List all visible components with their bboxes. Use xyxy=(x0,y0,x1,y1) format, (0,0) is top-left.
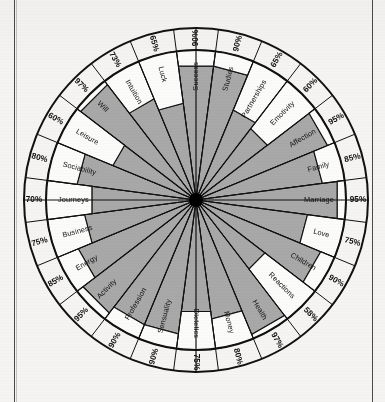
sector-percent-label: 90% xyxy=(231,34,244,53)
rim-divider xyxy=(315,95,332,108)
rim-divider xyxy=(253,339,261,359)
sector-percent-label: 85% xyxy=(343,151,362,164)
rim-divider xyxy=(174,29,177,51)
sector-percent-label: 60% xyxy=(47,111,66,127)
sector-label: Dietetics xyxy=(192,309,201,338)
sector-label: Marriage xyxy=(304,195,334,204)
radar-wheel-svg: SuccessStudiesPartnershipsEmotivityAffec… xyxy=(0,0,385,402)
rim-divider xyxy=(174,349,177,371)
rim-divider xyxy=(25,178,47,181)
sector-percent-label: 80% xyxy=(31,151,50,164)
sector-percent-label: 65% xyxy=(148,34,161,53)
rim-divider xyxy=(345,178,367,181)
rim-divider xyxy=(60,95,77,108)
rim-divider xyxy=(130,339,138,359)
life-wheel-figure: SuccessStudiesPartnershipsEmotivityAffec… xyxy=(0,0,385,402)
sector-percent-label: 90% xyxy=(191,29,200,46)
rim-divider xyxy=(335,134,355,142)
rim-divider xyxy=(315,291,332,304)
sector-percent-label: 73% xyxy=(107,50,123,69)
rim-divider xyxy=(37,257,57,265)
rim-divider xyxy=(287,64,300,81)
sector-label: Success xyxy=(191,62,200,91)
sector-percent-label: 85% xyxy=(46,272,65,288)
rim-divider xyxy=(335,257,355,265)
sector-percent-label: 90% xyxy=(147,347,160,366)
sector-percent-label: 95% xyxy=(72,305,90,323)
sector-percent-label: 75% xyxy=(343,235,362,248)
rim-divider xyxy=(253,41,261,61)
sector-percent-label: 70% xyxy=(26,195,43,204)
rim-divider xyxy=(60,291,77,304)
rim-divider xyxy=(287,319,300,336)
rim-divider xyxy=(216,349,219,371)
sector-percent-label: 95% xyxy=(350,195,367,204)
rim-divider xyxy=(345,220,367,223)
scanned-page: SuccessStudiesPartnershipsEmotivityAffec… xyxy=(0,0,385,402)
sector-percent-label: 75% xyxy=(30,235,49,248)
rim-divider xyxy=(91,64,104,81)
rim-divider xyxy=(37,134,57,142)
rim-divider xyxy=(91,319,104,336)
sector-percent-label: 80% xyxy=(232,347,245,366)
center-hub xyxy=(189,193,203,207)
rim-divider xyxy=(216,29,219,51)
sector-label: Journeys xyxy=(58,195,89,204)
sector-percent-label: 90% xyxy=(107,330,123,349)
sector-percent-label: 75% xyxy=(192,354,201,371)
sector-percent-label: 97% xyxy=(73,76,91,94)
rim-divider xyxy=(130,41,138,61)
rim-divider xyxy=(25,220,47,223)
